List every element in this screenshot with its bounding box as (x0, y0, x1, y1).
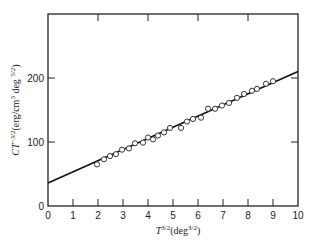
data-point-marker (184, 119, 189, 124)
y-tick-label: 0 (38, 201, 44, 212)
data-point-marker (140, 140, 145, 145)
x-tick-label: 10 (292, 210, 304, 221)
x-tick-label: 9 (270, 210, 276, 221)
data-point-marker (145, 135, 150, 140)
data-point-marker (155, 133, 160, 138)
x-tick-label: 2 (95, 210, 101, 221)
data-point-marker (254, 86, 259, 91)
axis-tick-labels: 0123456789100100200 (27, 73, 304, 221)
data-point-marker (226, 100, 231, 105)
plot-frame (48, 14, 298, 206)
data-point-marker (234, 95, 239, 100)
data-point-marker (94, 162, 99, 167)
data-point-marker (241, 91, 246, 96)
axis-ticks (48, 14, 298, 206)
data-point-marker (119, 147, 124, 152)
data-point-marker (126, 146, 131, 151)
chart: 0123456789100100200 T3/2(deg3/2) CT−3/2(… (0, 0, 314, 244)
x-tick-label: 7 (220, 210, 226, 221)
x-tick-label: 5 (170, 210, 176, 221)
x-tick-label: 8 (245, 210, 251, 221)
data-point-marker (219, 103, 224, 108)
data-point-marker (198, 115, 203, 120)
data-point-marker (150, 137, 155, 142)
data-point-marker (205, 106, 210, 111)
data-point-marker (132, 141, 137, 146)
data-point-marker (270, 79, 275, 84)
data-point-marker (212, 106, 217, 111)
fit-line (48, 72, 298, 183)
data-point-marker (263, 81, 268, 86)
y-tick-label: 100 (27, 137, 44, 148)
plot-border (48, 14, 298, 206)
x-tick-label: 1 (70, 210, 76, 221)
data-points (94, 79, 275, 167)
data-point-marker (113, 152, 118, 157)
y-tick-label: 200 (27, 73, 44, 84)
x-tick-label: 0 (45, 210, 51, 221)
data-point-marker (167, 125, 172, 130)
regression-line (48, 72, 298, 183)
data-point-marker (190, 116, 195, 121)
data-point-marker (249, 88, 254, 93)
data-point-marker (178, 125, 183, 130)
data-point-marker (161, 130, 166, 135)
x-tick-label: 3 (120, 210, 126, 221)
x-axis-title: T3/2(deg3/2) (156, 224, 201, 237)
y-axis-title: CT−3/2(erg/cm3 deg 5/2) (9, 64, 22, 155)
x-tick-label: 4 (145, 210, 151, 221)
x-tick-label: 6 (195, 210, 201, 221)
data-point-marker (101, 157, 106, 162)
data-point-marker (107, 153, 112, 158)
